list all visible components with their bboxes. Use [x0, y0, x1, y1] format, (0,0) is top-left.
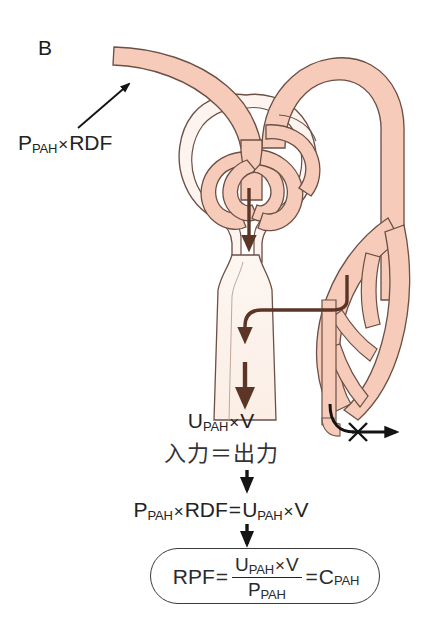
result-equals-1: =	[215, 565, 229, 589]
peritubular-capillary-network	[317, 218, 410, 436]
nephron-pah-clearance-diagram	[0, 0, 442, 632]
result-denom-subscript: PAH	[261, 587, 286, 602]
result-rpf: RPF	[173, 565, 215, 589]
urine-times: ×	[228, 413, 240, 432]
urine-u-subscript: PAH	[203, 419, 228, 434]
balance-times-1: ×	[173, 502, 185, 521]
balance-p: P	[134, 498, 148, 521]
balance-rdf: RDF	[185, 498, 228, 521]
result-fraction: UPAH×V PPAH	[229, 554, 305, 601]
result-denom-p: P	[248, 579, 261, 600]
result-formula: RPF= UPAH×V PPAH =CPAH	[151, 549, 381, 605]
balance-equals: =	[228, 498, 242, 521]
result-numerator: UPAH×V	[232, 554, 302, 578]
balance-p-subscript: PAH	[148, 508, 173, 523]
urine-u: U	[188, 409, 203, 432]
result-c-subscript: PAH	[334, 573, 359, 588]
result-formula-box: RPF= UPAH×V PPAH =CPAH	[150, 548, 380, 604]
balance-u: U	[242, 498, 257, 521]
inflow-pointer-arrow	[78, 84, 129, 128]
result-numer-subscript: PAH	[249, 562, 274, 577]
label-input-equals-output: 入力＝出力	[0, 443, 442, 465]
panel-label-b: B	[38, 36, 53, 60]
label-urine-pah-times-v: UPAH×V	[0, 410, 442, 431]
result-numer-v: V	[286, 554, 299, 575]
result-numer-u: U	[235, 554, 249, 575]
result-c: C	[319, 565, 334, 589]
plasma-p: P	[18, 131, 32, 154]
plasma-rdf: RDF	[69, 131, 112, 154]
plasma-times: ×	[57, 135, 69, 154]
urine-v: V	[240, 409, 254, 432]
label-balance-equation: PPAH×RDF=UPAH×V	[0, 499, 442, 520]
result-equals-2: =	[305, 565, 319, 589]
plasma-p-subscript: PAH	[32, 141, 57, 156]
balance-v: V	[294, 498, 308, 521]
balance-times-2: ×	[282, 502, 294, 521]
label-plasma-pah-times-rdf: PPAH×RDF	[18, 132, 112, 153]
result-denominator: PPAH	[232, 578, 302, 601]
result-numer-times: ×	[274, 556, 286, 575]
balance-u-subscript: PAH	[257, 508, 282, 523]
